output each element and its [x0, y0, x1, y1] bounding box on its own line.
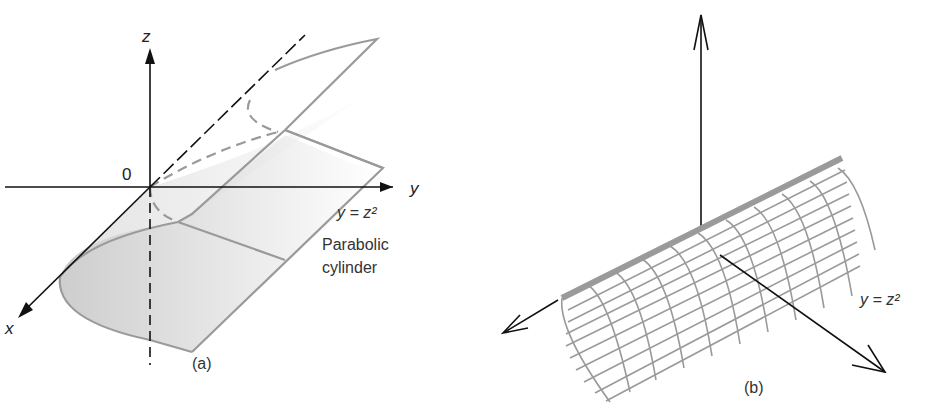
figure-canvas [0, 0, 928, 411]
panel-b-diagram [503, 15, 885, 402]
equation-a: y = z² [337, 203, 377, 222]
z-arrow-icon [145, 48, 155, 64]
parabolic-cylinder-mesh [562, 158, 875, 402]
surface-name-line2: cylinder [322, 258, 377, 277]
panel-a-diagram [5, 35, 393, 365]
equation-b: y = z² [860, 290, 900, 309]
surface-name-line1: Parabolic [322, 235, 389, 254]
y-arrow-icon [380, 182, 393, 192]
x-axis-label: x [5, 320, 14, 337]
origin-label: 0 [122, 166, 131, 183]
caption-a: (a) [192, 354, 212, 373]
z-axis-label: z [142, 28, 151, 45]
y-axis-label: y [410, 180, 419, 197]
caption-b: (b) [744, 378, 764, 397]
